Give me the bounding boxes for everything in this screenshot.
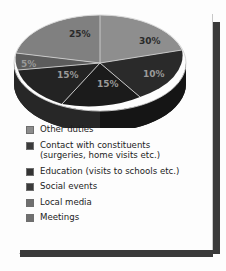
legend-item-education: Education (visits to schools etc.) <box>26 166 206 177</box>
legend-label: Contact with constituents <box>40 140 150 150</box>
pie-chart: 30% 25% 5% 15% 15% 10% <box>0 0 200 128</box>
pie-label-social-events: 15% <box>57 70 79 80</box>
chart-figure: 30% 25% 5% 15% 15% 10% Other duties Cont… <box>0 0 226 271</box>
legend-item-social-events: Social events <box>26 181 206 192</box>
legend-label: Social events <box>40 181 97 192</box>
legend-label: Meetings <box>40 212 79 223</box>
legend-swatch-icon <box>26 126 34 134</box>
pie-label-other-duties: 30% <box>139 36 161 46</box>
chart-legend: Other duties Contact with constituents (… <box>26 124 206 228</box>
pie-label-meetings: 25% <box>69 29 91 39</box>
pie-label-local-media: 5% <box>21 59 36 69</box>
legend-swatch-icon <box>26 142 34 150</box>
legend-label: Local media <box>40 197 92 208</box>
legend-item-other-duties: Other duties <box>26 124 206 135</box>
legend-swatch-icon <box>26 199 34 207</box>
pie-label-contact-constituents: 10% <box>143 69 165 79</box>
legend-swatch-icon <box>26 214 34 222</box>
figure-shadow-right <box>213 22 220 254</box>
legend-label: Other duties <box>40 124 94 135</box>
figure-shadow-bottom <box>20 250 213 257</box>
legend-item-meetings: Meetings <box>26 212 206 223</box>
legend-item-local-media: Local media <box>26 197 206 208</box>
legend-swatch-icon <box>26 168 34 176</box>
legend-item-contact-with-constituents: Contact with constituents (surgeries, ho… <box>26 140 206 161</box>
legend-label-sub: (surgeries, home visits etc.) <box>40 150 160 161</box>
pie-label-education: 15% <box>97 79 119 89</box>
legend-label-group: Contact with constituents (surgeries, ho… <box>40 140 160 161</box>
legend-swatch-icon <box>26 183 34 191</box>
legend-label: Education (visits to schools etc.) <box>40 166 179 177</box>
